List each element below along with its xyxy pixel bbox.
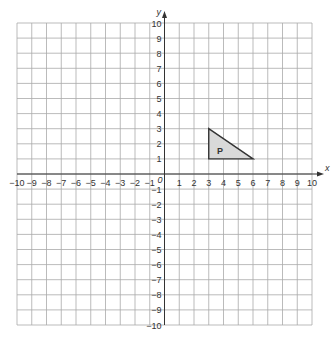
- y-tick-label: 7: [156, 64, 161, 74]
- axes: [17, 11, 324, 325]
- x-tick-label: 2: [191, 178, 196, 188]
- x-tick-label: −7: [56, 178, 66, 188]
- y-tick-label: 9: [156, 34, 161, 44]
- y-tick-label: −10: [146, 321, 161, 331]
- x-tick-label: −2: [130, 178, 140, 188]
- tick-labels: xy0−10−9−8−7−6−5−4−3−2−11234567891010987…: [9, 7, 330, 331]
- x-tick-label: 9: [295, 178, 300, 188]
- y-tick-label: 1: [156, 154, 161, 164]
- y-tick-label: 5: [156, 94, 161, 104]
- origin-label: 0: [158, 175, 163, 185]
- coordinate-grid-diagram: P xy0−10−9−8−7−6−5−4−3−2−112345678910109…: [0, 0, 332, 341]
- x-tick-label: 5: [236, 178, 241, 188]
- y-tick-label: −1: [151, 185, 161, 195]
- x-tick-label: 6: [250, 178, 255, 188]
- y-tick-label: −3: [151, 215, 161, 225]
- y-tick-label: −2: [151, 200, 161, 210]
- x-tick-label: 1: [177, 178, 182, 188]
- y-tick-label: 4: [156, 109, 161, 119]
- x-tick-label: −5: [86, 178, 96, 188]
- x-axis-arrow-icon: [317, 172, 324, 177]
- y-tick-label: −8: [151, 290, 161, 300]
- x-tick-label: −9: [27, 178, 37, 188]
- y-tick-label: −6: [151, 260, 161, 270]
- x-tick-label: 3: [206, 178, 211, 188]
- y-tick-label: −4: [151, 230, 161, 240]
- y-axis-label: y: [156, 7, 162, 17]
- coordinate-plane: P xy0−10−9−8−7−6−5−4−3−2−112345678910109…: [0, 0, 332, 341]
- y-tick-label: −9: [151, 305, 161, 315]
- x-tick-label: 4: [221, 178, 226, 188]
- y-tick-label: 2: [156, 139, 161, 149]
- x-tick-label: −4: [100, 178, 110, 188]
- x-tick-label: 7: [265, 178, 270, 188]
- shape-label-P: P: [217, 146, 223, 156]
- y-tick-label: 6: [156, 79, 161, 89]
- x-tick-label: 8: [280, 178, 285, 188]
- x-tick-label: −6: [71, 178, 81, 188]
- y-axis-arrow-icon: [162, 11, 167, 18]
- y-tick-label: 10: [151, 19, 161, 29]
- x-tick-label: −10: [9, 178, 24, 188]
- x-tick-label: −8: [41, 178, 51, 188]
- x-axis-label: x: [324, 163, 330, 173]
- x-tick-label: −3: [115, 178, 125, 188]
- y-tick-label: −5: [151, 245, 161, 255]
- y-tick-label: 8: [156, 49, 161, 59]
- y-tick-label: 3: [156, 124, 161, 134]
- y-tick-label: −7: [151, 275, 161, 285]
- x-tick-label: 10: [307, 178, 317, 188]
